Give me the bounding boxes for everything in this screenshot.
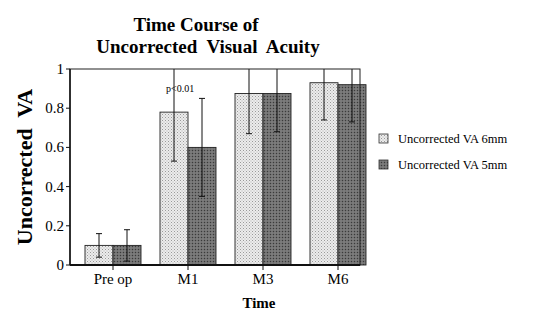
bar-chart: Time Course of Uncorrected Visual Acuity… [0, 0, 545, 322]
chart-title-line-1: Time Course of [133, 14, 259, 35]
legend-item-6mm: Uncorrected VA 6mm [379, 132, 508, 146]
legend-swatch-5mm [379, 160, 388, 169]
y-axis-ticks: 00.20.40.60.81 [45, 61, 70, 273]
y-tick-label: 0.2 [45, 218, 64, 234]
x-axis-ticks: Pre opM1M3M6 [94, 265, 349, 287]
significance-annotation: p<0.01 [166, 83, 194, 94]
y-tick-label: 1 [57, 61, 65, 77]
y-tick-label: 0.4 [45, 179, 64, 195]
y-axis-label: Uncorrected VA [12, 89, 37, 246]
legend-label-5mm: Uncorrected VA 5mm [398, 158, 508, 172]
x-tick-label: M1 [178, 271, 199, 287]
y-tick-label: 0.8 [45, 100, 64, 116]
y-tick-label: 0 [57, 257, 65, 273]
x-axis-label: Time [242, 295, 275, 311]
x-tick-label: M6 [328, 271, 349, 287]
legend: Uncorrected VA 6mm Uncorrected VA 5mm [379, 132, 508, 172]
x-tick-label: Pre op [94, 271, 133, 287]
legend-label-6mm: Uncorrected VA 6mm [398, 132, 508, 146]
chart-title-line-2: Uncorrected Visual Acuity [96, 36, 320, 57]
legend-swatch-6mm [379, 134, 388, 143]
y-tick-label: 0.6 [45, 139, 64, 155]
x-tick-label: M3 [253, 271, 274, 287]
legend-item-5mm: Uncorrected VA 5mm [379, 158, 508, 172]
